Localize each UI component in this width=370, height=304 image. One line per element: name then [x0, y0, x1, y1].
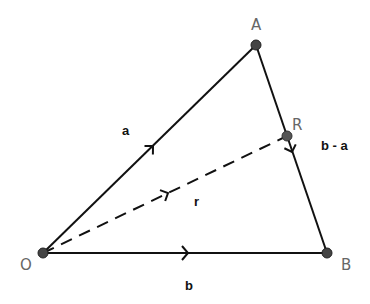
point-b: [322, 248, 332, 258]
label-point-b: B: [341, 256, 351, 274]
label-vector-b-minus-a: b - a: [321, 138, 348, 153]
label-point-o: O: [20, 256, 32, 274]
label-vector-r: r: [194, 194, 199, 209]
segment-ab: [256, 45, 327, 253]
label-point-a: A: [251, 16, 262, 34]
label-vector-a: a: [122, 123, 130, 138]
segment-oa: [43, 45, 256, 253]
arrow-icon-or: [160, 188, 171, 201]
point-r: [282, 131, 292, 141]
point-a: [251, 40, 261, 50]
label-vector-b: b: [185, 278, 193, 293]
vector-diagram: O A B R a b b - a r: [0, 0, 370, 304]
label-point-r: R: [292, 116, 302, 134]
segment-or-dashed: [43, 136, 287, 253]
point-o: [38, 248, 48, 258]
